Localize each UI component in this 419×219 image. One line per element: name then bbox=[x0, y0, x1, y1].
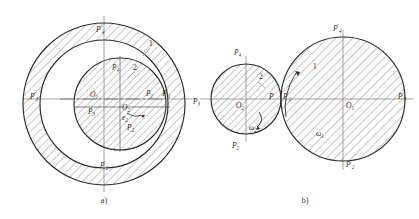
figure-canvas: P'4 P4 P'3 P3 P1 P'1 P2 P'2 bbox=[0, 0, 419, 219]
label-b-P4-prime: P'4 bbox=[332, 23, 342, 34]
label-a-numeral-2: 2 bbox=[133, 63, 137, 72]
panel-a: P'4 P4 P'3 P3 P1 P'1 P2 P'2 bbox=[22, 16, 196, 205]
caption-panel-a: a) bbox=[101, 195, 108, 205]
label-b-P-tangent: P bbox=[268, 92, 274, 101]
label-b-P4: P4 bbox=[233, 48, 242, 58]
label-b-P3: P3 bbox=[192, 97, 201, 107]
label-b-P2: P2 bbox=[231, 141, 240, 151]
caption-panel-b: b) bbox=[301, 195, 308, 205]
label-b-numeral-1: 1 bbox=[313, 62, 317, 71]
label-b-numeral-2: 2 bbox=[259, 72, 263, 81]
technical-figure: P'4 P4 P'3 P3 P1 P'1 P2 P'2 bbox=[0, 0, 419, 219]
label-a-numeral-1: 1 bbox=[149, 39, 153, 48]
panel-b: P4 P'4 P3 P'3 P P'1 P2 P'2 bbox=[192, 23, 414, 205]
